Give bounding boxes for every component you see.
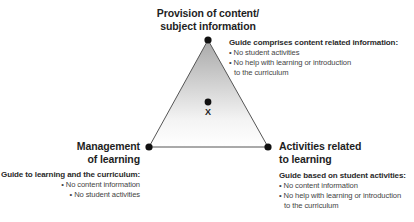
right-vertex-label-line-2: to learning: [279, 153, 361, 166]
left-bullet-1: • No content information: [0, 180, 140, 190]
right-bullet-2: • No help with learning or introduction: [279, 191, 406, 201]
top-description-title: Guide comprises content related informat…: [229, 38, 398, 48]
left-vertex-label: Management of learning: [60, 140, 140, 166]
top-vertex-label-line-2: subject information: [150, 20, 266, 33]
vertex-dot-left: [145, 143, 152, 150]
right-bullet-2-continuation: to the curriculum: [279, 201, 406, 211]
top-bullet-2-continuation: to the curriculum: [229, 68, 398, 78]
left-vertex-description: Guide to learning and the curriculum: • …: [0, 170, 140, 200]
top-vertex-label-line-1: Provision of content/: [150, 7, 266, 20]
right-vertex-label: Activities related to learning: [279, 140, 361, 166]
left-vertex-label-line-1: Management: [60, 140, 140, 153]
top-vertex-description: Guide comprises content related informat…: [229, 38, 398, 78]
center-dot: [205, 99, 212, 106]
right-vertex-description: Guide based on student activities: • No …: [279, 171, 406, 211]
vertex-dot-top: [204, 36, 211, 43]
right-description-title: Guide based on student activities:: [279, 171, 406, 181]
top-bullet-1: • No student activities: [229, 48, 398, 58]
left-bullet-2: • No student activities: [0, 190, 140, 200]
left-vertex-label-line-2: of learning: [60, 153, 140, 166]
right-bullet-1: • No content information: [279, 181, 406, 191]
right-vertex-label-line-1: Activities related: [279, 140, 361, 153]
left-description-title: Guide to learning and the curriculum:: [0, 170, 140, 180]
top-vertex-label: Provision of content/ subject informatio…: [150, 7, 266, 33]
center-marker-label: X: [202, 106, 214, 119]
vertex-dot-right: [264, 143, 271, 150]
top-bullet-2: • No help with learning or introduction: [229, 58, 398, 68]
